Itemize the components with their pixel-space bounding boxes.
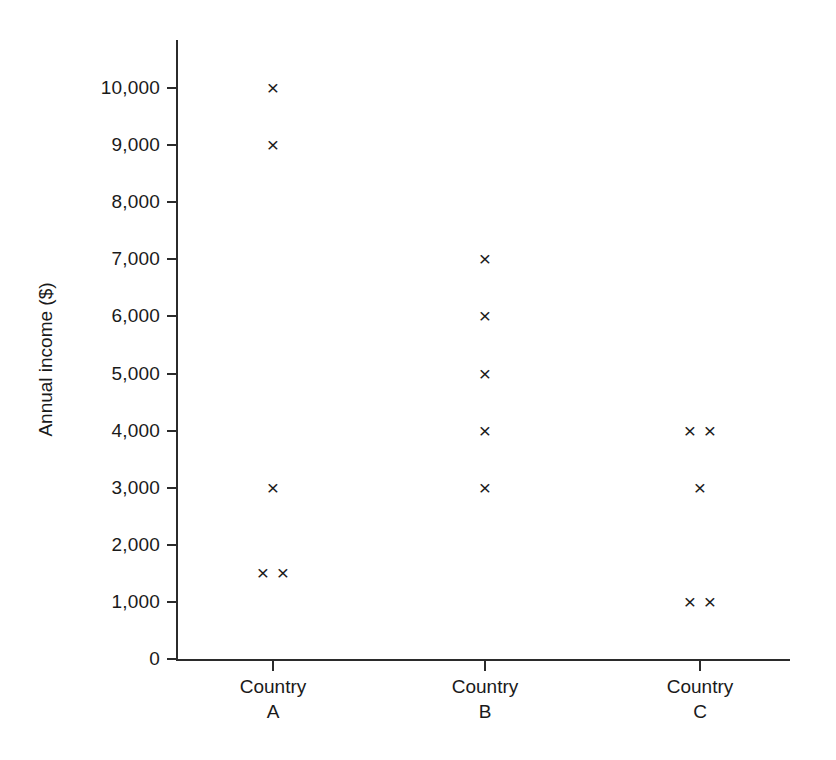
data-point-marker: ×: [700, 591, 721, 612]
y-tick-label: 2,000: [55, 535, 160, 554]
y-tick-label: 9,000: [55, 135, 160, 154]
y-tick-label-text: 6,000: [60, 306, 160, 325]
y-tick-mark: [167, 87, 176, 89]
y-tick-mark: [167, 601, 176, 603]
x-tick-mark: [699, 661, 701, 671]
y-tick-mark: [167, 658, 176, 660]
y-tick-mark: [167, 258, 176, 260]
y-tick-mark: [167, 315, 176, 317]
category-label-line2: A: [183, 699, 363, 724]
data-point-marker: ×: [263, 477, 284, 498]
y-tick-label: 5,000: [55, 364, 160, 383]
y-tick-mark: [167, 373, 176, 375]
data-point-marker: ×: [680, 420, 701, 441]
y-tick-label: 6,000: [55, 306, 160, 325]
data-point-marker: ×: [475, 248, 496, 269]
y-tick-label-text: 0: [60, 649, 160, 668]
y-tick-label: 4,000: [55, 421, 160, 440]
data-point-marker: ×: [690, 477, 711, 498]
x-tick-mark: [484, 661, 486, 671]
dot-plot-chart: Annual income ($) 01,0002,0003,0004,0005…: [0, 0, 836, 760]
y-tick-label-text: 3,000: [60, 478, 160, 497]
y-tick-label-text: 1,000: [60, 592, 160, 611]
data-point-marker: ×: [263, 134, 284, 155]
data-point-marker: ×: [263, 77, 284, 98]
y-tick-mark: [167, 487, 176, 489]
data-point-marker: ×: [475, 363, 496, 384]
x-category-label-a: CountryA: [183, 674, 363, 724]
data-point-marker: ×: [680, 591, 701, 612]
y-tick-label-text: 5,000: [60, 364, 160, 383]
category-label-line1: Country: [667, 676, 734, 697]
category-label-line2: C: [610, 699, 790, 724]
y-tick-label: 10,000: [55, 78, 160, 97]
data-point-marker: ×: [700, 420, 721, 441]
y-tick-label-text: 10,000: [60, 78, 160, 97]
y-tick-label-text: 7,000: [60, 249, 160, 268]
y-tick-mark: [167, 544, 176, 546]
x-category-label-b: CountryB: [395, 674, 575, 724]
data-point-marker: ×: [475, 420, 496, 441]
y-tick-label: 0: [55, 649, 160, 668]
category-label-line1: Country: [240, 676, 307, 697]
category-label-line1: Country: [452, 676, 519, 697]
data-point-marker: ×: [475, 477, 496, 498]
y-tick-label: 3,000: [55, 478, 160, 497]
x-axis-line: [176, 659, 790, 661]
x-category-label-c: CountryC: [610, 674, 790, 724]
y-tick-mark: [167, 144, 176, 146]
y-axis-line: [176, 40, 178, 661]
y-tick-label-text: 8,000: [60, 192, 160, 211]
y-axis-title: Annual income ($): [36, 230, 55, 490]
data-point-marker: ×: [475, 305, 496, 326]
data-point-marker: ×: [273, 562, 294, 583]
y-tick-label: 7,000: [55, 249, 160, 268]
category-label-line2: B: [395, 699, 575, 724]
y-tick-label: 1,000: [55, 592, 160, 611]
y-tick-mark: [167, 430, 176, 432]
y-tick-label-text: 2,000: [60, 535, 160, 554]
data-point-marker: ×: [253, 562, 274, 583]
y-tick-label-text: 4,000: [60, 421, 160, 440]
x-tick-mark: [272, 661, 274, 671]
y-tick-label-text: 9,000: [60, 135, 160, 154]
y-tick-label: 8,000: [55, 192, 160, 211]
y-tick-mark: [167, 201, 176, 203]
